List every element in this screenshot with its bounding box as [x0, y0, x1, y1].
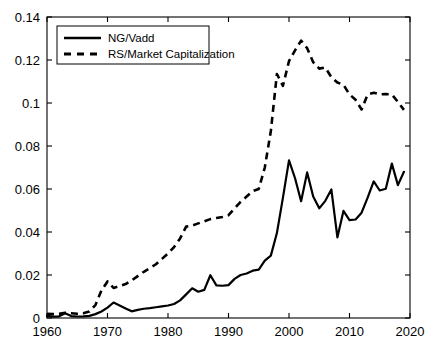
x-tick-label: 2010: [335, 324, 364, 339]
x-tick-label: 1990: [214, 324, 243, 339]
chart-figure: 00.020.040.060.080.10.120.14 19601970198…: [0, 0, 433, 354]
x-tick-label: 1970: [93, 324, 122, 339]
x-tick-label: 2020: [396, 324, 425, 339]
y-tick-label: 0.04: [15, 225, 40, 240]
legend-label-rs-market-capitalization: RS/Market Capitalization: [108, 48, 235, 60]
chart-legend[interactable]: NG/Vadd RS/Market Capitalization: [57, 26, 235, 64]
y-tick-label: 0.08: [15, 139, 40, 154]
y-tick-label: 0.14: [15, 10, 40, 25]
legend-label-ng-vadd: NG/Vadd: [108, 32, 154, 44]
y-tick-label: 0.1: [22, 96, 40, 111]
x-tick-label: 1960: [33, 324, 62, 339]
y-tick-label: 0.06: [15, 182, 40, 197]
y-tick-label: 0.12: [15, 53, 40, 68]
x-tick-label: 2000: [275, 324, 304, 339]
x-tick-label: 1980: [154, 324, 183, 339]
line-chart: 00.020.040.060.080.10.120.14 19601970198…: [0, 0, 433, 354]
y-tick-label: 0.02: [15, 268, 40, 283]
